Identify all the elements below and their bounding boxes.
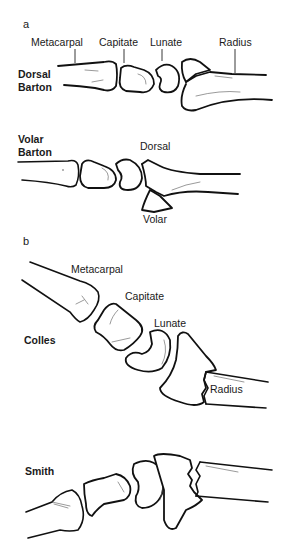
capitate-bone [94, 304, 142, 351]
label-metacarpal-colles: Metacarpal [71, 264, 123, 275]
label-volar-fragment: Volar [143, 214, 167, 225]
radius-shaft-bottom [196, 496, 268, 502]
dorsal-barton-title-line1: Dorsal [18, 68, 52, 81]
lunate-bone [156, 65, 179, 93]
smith-diagram [26, 454, 272, 538]
capitate-bone [84, 474, 130, 516]
volar-barton-title: Volar Barton [18, 133, 52, 159]
label-radius-dorsal-barton: Radius [219, 37, 252, 48]
label-radius-colles: Radius [210, 384, 243, 395]
radius-dorsal-edge [142, 160, 240, 174]
capitate-bone [80, 160, 116, 188]
label-lunate-dorsal-barton: Lunate [150, 37, 182, 48]
colles-title: Colles [24, 334, 56, 347]
volar-barton-title-line2: Barton [18, 146, 52, 159]
metacarpal-bone [58, 61, 117, 90]
label-capitate-dorsal-barton: Capitate [99, 37, 138, 48]
dorsal-rim-fragment [182, 59, 210, 82]
smith-title: Smith [25, 465, 54, 478]
metacarpal-bone [18, 161, 79, 187]
panel-b-letter: b [23, 236, 29, 247]
lunate-bone [116, 160, 142, 191]
label-dorsal-fragment: Dorsal [140, 141, 170, 152]
volar-barton-title-line1: Volar [18, 133, 52, 146]
metacarpal-bone [26, 490, 83, 538]
dorsal-barton-diagram [58, 49, 272, 111]
wrist-fracture-figure: a Metacarpal Capitate Lunate Radius Dors… [0, 0, 286, 554]
label-capitate-colles: Capitate [125, 291, 164, 302]
dorsal-barton-title: Dorsal Barton [18, 68, 52, 94]
volar-rim-fragment [142, 190, 172, 212]
panel-a-letter: a [23, 19, 29, 30]
label-metacarpal-dorsal-barton: Metacarpal [31, 37, 83, 48]
radius-shaft [142, 164, 238, 196]
capitate-bone [120, 66, 154, 93]
radius-volar-edge [182, 84, 273, 111]
dorsal-barton-title-line2: Barton [18, 81, 52, 94]
volar-barton-diagram [18, 160, 240, 213]
label-lunate-colles: Lunate [154, 318, 186, 329]
radius-shaft-top [200, 462, 272, 470]
radius-shaft-bottom [206, 404, 266, 408]
